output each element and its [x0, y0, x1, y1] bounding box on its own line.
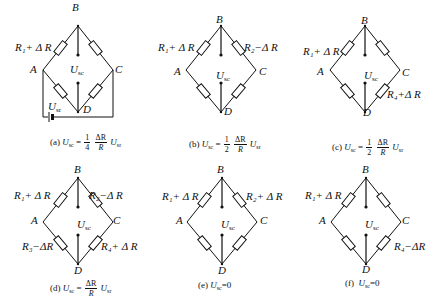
node-c-label: C: [259, 66, 266, 77]
node-a-label: A: [30, 64, 37, 75]
resistor-bc-label: R₂+ Δ R: [246, 191, 282, 202]
resistor-bc-label: R₂−Δ R: [244, 42, 278, 53]
resistor-ab-label: R₁+ Δ R: [303, 46, 339, 57]
node-a-label: A: [319, 215, 326, 226]
output-voltage-label: Usc: [365, 219, 379, 232]
resistor-ad-label: R₃−ΔR: [22, 241, 53, 252]
node-c-label: C: [115, 64, 122, 75]
bridge-panel-e: B A C D R₁+ Δ R R₂+ Δ R Usc (e) Usc=0: [145, 155, 290, 307]
caption-f: (f) Usc=0: [345, 279, 380, 289]
resistor-dc-label: R₄+ Δ R: [101, 241, 137, 252]
node-d-label: D: [74, 265, 82, 276]
bridge-panel-d: B A C D R₁+ Δ R R₂−Δ R R₃−ΔR R₄+ Δ R Usc…: [0, 155, 145, 307]
resistor-ab-label: R₁+ Δ R: [15, 42, 51, 53]
node-b-label: B: [74, 164, 81, 175]
caption-b: (b) Usc = 12 ΔRR Usr: [189, 135, 261, 154]
node-a-label: A: [174, 66, 181, 77]
output-voltage-label: Usc: [77, 219, 91, 232]
node-c-label: C: [260, 215, 267, 226]
node-d-label: D: [83, 104, 91, 115]
node-b-label: B: [72, 2, 79, 13]
resistor-ab-label: R₁+ Δ R: [162, 191, 198, 202]
resistor-bc-label: R₂−Δ R: [89, 190, 123, 201]
node-d-label: D: [218, 265, 226, 276]
resistor-ab-label: R₁+ Δ R: [14, 190, 50, 201]
caption-e: (e) Usc=0: [198, 281, 231, 291]
node-c-label: C: [402, 67, 409, 78]
node-d-label: D: [362, 264, 370, 275]
bridge-circuit-diagram: [0, 0, 145, 155]
node-c-label: C: [402, 215, 409, 226]
input-voltage-label: Usr: [48, 101, 61, 114]
node-b-label: B: [216, 14, 223, 25]
caption-a: (a) Usc = 14 ΔRR Usr: [50, 133, 121, 152]
node-d-label: D: [224, 106, 232, 117]
output-voltage-label: Usc: [216, 70, 230, 83]
node-a-label: A: [176, 215, 183, 226]
resistor-ab-label: R₁+ Δ R: [158, 42, 194, 53]
bridge-panel-c: B A C D R₁+ Δ R R₄+Δ R Usc (c) Usc = 12 …: [288, 0, 433, 155]
resistor-dc-label: R₄+Δ R: [387, 89, 421, 100]
bridge-panel-f: B A C D R₁+ Δ R R₄−ΔR Usc (f) Usc=0: [288, 155, 433, 307]
node-b-label: B: [361, 15, 368, 26]
resistor-dc-label: R₄−ΔR: [394, 241, 425, 252]
output-voltage-label: Usc: [221, 219, 235, 232]
caption-d: (d) Usc = ΔRR Usr: [50, 279, 111, 298]
node-a-label: A: [31, 215, 38, 226]
node-b-label: B: [362, 164, 369, 175]
resistor-ab-label: R₁+ Δ R: [305, 190, 341, 201]
output-voltage-label: Usc: [70, 64, 84, 77]
node-a-label: A: [317, 66, 324, 77]
node-d-label: D: [363, 107, 371, 118]
bridge-panel-a: B A C D R₁+ Δ R Usc Usr (a) Usc = 14 ΔRR…: [0, 0, 145, 155]
bridge-panel-b: B A C D R₁+ Δ R R₂−Δ R Usc (b) Usc = 12 …: [145, 0, 290, 155]
node-c-label: C: [113, 215, 120, 226]
output-voltage-label: Usc: [364, 70, 378, 83]
node-b-label: B: [217, 164, 224, 175]
